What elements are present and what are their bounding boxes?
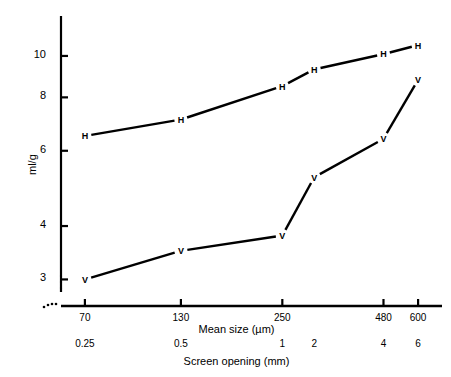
data-point-marker-H: H [178,115,185,125]
data-series-V [91,85,415,277]
x-tick-label-secondary: 6 [415,338,421,349]
x-tick-label: 480 [375,312,392,323]
series-segment [387,85,415,133]
data-point-marker-V: V [380,134,386,144]
y-tick-label: 3 [18,271,46,283]
x-tick-label: 130 [173,312,190,323]
data-series-H [91,47,411,135]
x-axis-title-secondary: Screen opening (mm) [184,355,290,367]
data-point-marker-V: V [82,275,88,285]
y-tick-label: 10 [18,48,46,60]
series-segment [285,183,311,230]
series-segment [321,55,378,68]
x-tick-label-secondary: 4 [381,338,387,349]
x-tick-label: 250 [274,312,291,323]
axes [61,16,442,306]
y-axis-title: ml/g [26,154,38,175]
x-tick-label-secondary: 0.25 [75,338,94,349]
data-point-marker-V: V [311,173,317,183]
data-point-marker-V: V [178,246,184,256]
x-tick-label: 600 [410,312,427,323]
x-tick-label-secondary: 2 [311,338,317,349]
series-segment [187,237,276,250]
y-tick-label: 6 [18,143,46,155]
data-point-marker-V: V [415,75,421,85]
series-segment [320,142,378,174]
y-tick-label: 8 [18,89,46,101]
data-point-marker-H: H [380,49,387,59]
x-axis-title: Mean size (µm) [198,323,274,335]
series-segment [187,88,276,117]
series-segment [91,121,174,135]
series-segment [390,47,412,53]
y-tick-label: 4 [18,218,46,230]
data-point-marker-H: H [311,65,318,75]
data-point-marker-H: H [279,82,286,92]
data-point-marker-V: V [279,231,285,241]
x-tick-label-secondary: 1 [280,338,286,349]
x-tick-label-secondary: 0.5 [174,338,188,349]
chart-figure: HHHHHHVVVVVV 346810701302504806000.250.5… [0,0,451,377]
data-point-marker-H: H [82,131,89,141]
series-segment [91,253,175,278]
series-segment [288,72,308,83]
x-tick-label: 70 [79,312,90,323]
data-point-marker-H: H [415,41,422,51]
